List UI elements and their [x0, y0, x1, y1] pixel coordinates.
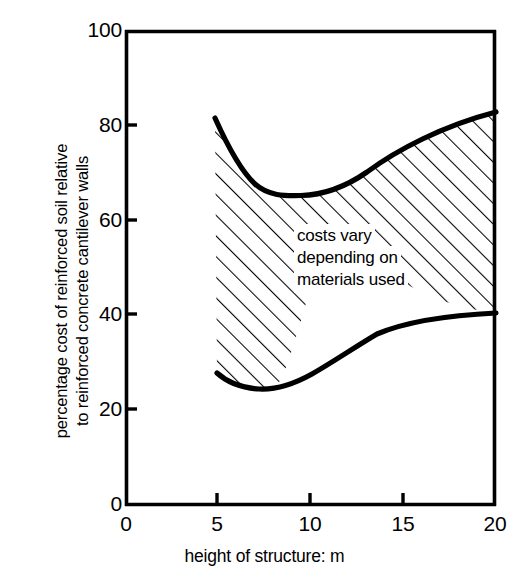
y-axis-title-line-1: percentage cost of reinforced soil relat…	[51, 144, 72, 438]
y-tick-label-100: 100	[84, 18, 122, 42]
chart-figure: 100 80 60 40 20 0 0 5 10 15 20 percentag…	[0, 0, 529, 581]
x-tick-label-5: 5	[197, 512, 237, 536]
x-tick-label-15: 15	[383, 512, 423, 536]
x-axis-ticks	[217, 493, 403, 504]
x-axis-title: height of structure: m	[0, 546, 529, 567]
band-annotation-line-2: depending on	[294, 246, 401, 271]
x-tick-label-20: 20	[475, 512, 515, 536]
x-tick-label-0: 0	[106, 512, 146, 536]
band-annotation-line-3: materials used	[294, 268, 408, 293]
x-tick-label-10: 10	[290, 512, 330, 536]
y-axis-title: percentage cost of reinforced soil relat…	[49, 76, 95, 506]
band-annotation-line-1: costs vary	[294, 224, 375, 249]
y-axis-title-line-2: to reinforced concrete cantilever walls	[72, 156, 93, 426]
